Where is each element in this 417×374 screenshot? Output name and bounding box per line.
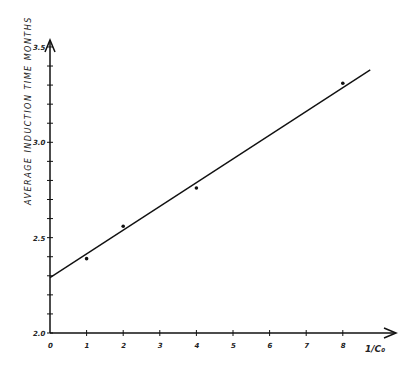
data-point bbox=[121, 224, 125, 228]
x-tick-label: 8 bbox=[341, 342, 346, 350]
y-tick-label: 2.0 bbox=[33, 330, 46, 338]
y-tick-label: 3.5 bbox=[33, 44, 46, 52]
x-tick-label: 2 bbox=[121, 342, 126, 350]
fit-line bbox=[50, 70, 370, 278]
y-tick-label: 2.5 bbox=[33, 235, 46, 243]
x-tick-label: 6 bbox=[268, 342, 273, 350]
y-axis bbox=[45, 40, 55, 333]
y-axis-label: AVERAGE INDUCTION TIME MONTHS bbox=[24, 16, 33, 206]
x-tick-label: 0 bbox=[48, 342, 53, 350]
data-point bbox=[341, 81, 345, 85]
chart: 2.02.53.03.5 012345678 AVERAGE INDUCTION… bbox=[0, 0, 417, 374]
data-point bbox=[195, 186, 199, 190]
x-tick-label: 1 bbox=[85, 342, 90, 350]
x-tick-label: 4 bbox=[194, 342, 199, 350]
x-tick-label: 5 bbox=[231, 342, 236, 350]
x-axis-label: 1/C₀ bbox=[365, 344, 385, 354]
data-point bbox=[85, 257, 89, 261]
y-tick-label: 3.0 bbox=[33, 139, 46, 147]
x-axis bbox=[50, 328, 396, 338]
x-tick-label: 3 bbox=[158, 342, 163, 350]
x-tick-label: 7 bbox=[304, 342, 309, 350]
